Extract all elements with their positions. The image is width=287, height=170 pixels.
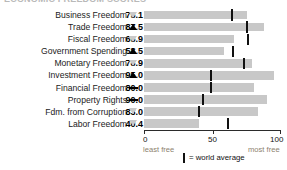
world-average-marker <box>232 46 234 57</box>
world-average-marker <box>243 58 245 69</box>
row-label: Fiscal Freedom <box>68 33 127 45</box>
world-average-marker <box>247 34 249 45</box>
economic-freedom-chart: ECONOMIC FREEDOM SCORES Business Freedom… <box>0 0 287 170</box>
value-bar <box>144 71 274 80</box>
row-plot <box>144 82 281 94</box>
row-plot <box>144 94 281 106</box>
world-average-marker <box>246 21 248 32</box>
row-plot <box>144 57 281 69</box>
x-axis-tick-100 <box>280 130 281 134</box>
world-average-tick-icon <box>183 153 185 163</box>
page-title: ECONOMIC FREEDOM SCORES <box>4 0 146 4</box>
trend-flat-icon-glyph <box>129 87 138 89</box>
chart-row: Investment Freedom95.0 <box>0 69 287 81</box>
chart-row: Property Rights90.0 <box>0 94 287 106</box>
chart-row: Business Freedom75.1 <box>0 9 287 21</box>
trend-down-icon <box>128 118 140 130</box>
chart-rows: Business Freedom75.1Trade Freedom87.5Fis… <box>0 9 287 130</box>
world-average-marker <box>202 94 204 105</box>
value-bar <box>144 95 267 104</box>
trend-down-icon <box>128 106 140 118</box>
trend-up-icon-glyph <box>129 24 137 30</box>
world-average-marker <box>231 9 233 20</box>
row-label: Property Rights <box>68 94 127 106</box>
chart-row: Trade Freedom87.5 <box>0 21 287 33</box>
value-bar <box>144 59 252 68</box>
trend-flat-icon <box>128 94 140 106</box>
trend-flat-icon-glyph <box>129 99 138 101</box>
value-bar <box>144 119 199 128</box>
trend-up-icon <box>128 21 140 33</box>
row-label: Business Freedom <box>55 9 127 21</box>
row-plot <box>144 33 281 45</box>
trend-up-icon-glyph <box>129 72 137 78</box>
x-axis-tick-0 <box>144 130 145 134</box>
chart-row: Labor Freedom40.4 <box>0 118 287 130</box>
chart-row: Monetary Freedom78.9 <box>0 57 287 69</box>
trend-up-icon <box>128 45 140 57</box>
x-axis-label-100: 100 <box>270 135 283 144</box>
row-plot <box>144 106 281 118</box>
trend-up-icon-glyph <box>129 48 137 54</box>
trend-up-icon <box>128 69 140 81</box>
row-label: Investment Freedom <box>48 69 127 81</box>
x-axis-label-50: 50 <box>208 135 217 144</box>
x-axis-label-0: 0 <box>143 135 147 144</box>
value-bar <box>144 107 258 116</box>
trend-down-icon-glyph <box>129 120 137 126</box>
trend-down-icon-glyph <box>129 12 137 18</box>
row-label: Fdm. from Corruption <box>45 106 127 118</box>
world-average-marker <box>210 82 212 93</box>
trend-down-icon-glyph <box>129 108 137 114</box>
value-bar <box>144 83 254 92</box>
row-plot <box>144 9 281 21</box>
row-label: Trade Freedom <box>68 21 127 33</box>
value-bar <box>144 47 224 56</box>
chart-title-clipped: ECONOMIC FREEDOM SCORES <box>0 0 287 7</box>
row-plot <box>144 69 281 81</box>
row-label: Financial Freedom <box>56 82 127 94</box>
trend-down-icon <box>128 33 140 45</box>
trend-down-icon <box>128 57 140 69</box>
legend-label: = world average <box>189 152 245 163</box>
trend-flat-icon <box>128 82 140 94</box>
row-label: Government Spending <box>41 45 127 57</box>
trend-down-icon-glyph <box>129 36 137 42</box>
value-bar <box>144 35 234 44</box>
row-plot <box>144 45 281 57</box>
chart-row: Government Spending58.5 <box>0 45 287 57</box>
chart-row: Financial Freedom80.0 <box>0 82 287 94</box>
row-label: Labor Freedom <box>68 118 127 130</box>
axis-most-free-label: most free <box>248 145 280 154</box>
row-plot <box>144 21 281 33</box>
x-axis-tick-50 <box>213 130 214 134</box>
world-average-marker <box>227 118 229 129</box>
chart-row: Fiscal Freedom65.9 <box>0 33 287 45</box>
row-label: Monetary Freedom <box>54 57 127 69</box>
row-plot <box>144 118 281 130</box>
axis-least-free-label: least free <box>143 145 174 154</box>
world-average-marker <box>198 106 200 117</box>
chart-row: Fdm. from Corruption83.0 <box>0 106 287 118</box>
trend-down-icon-glyph <box>129 60 137 66</box>
world-average-marker <box>210 70 212 81</box>
trend-down-icon <box>128 9 140 21</box>
